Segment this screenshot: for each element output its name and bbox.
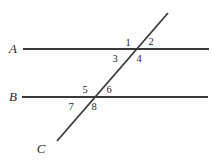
transversal-c-stroke: [57, 13, 168, 141]
geometry-canvas: A B C 1 2 3 4 5 6 7 8: [0, 0, 213, 162]
angle-label-4: 4: [136, 53, 142, 64]
angle-label-1: 1: [125, 37, 130, 48]
line-label-b: B: [9, 89, 17, 104]
angle-label-8: 8: [91, 101, 96, 112]
line-label-c: C: [37, 141, 46, 156]
angle-label-2: 2: [148, 36, 153, 47]
angle-label-3: 3: [112, 53, 117, 64]
line-label-a: A: [8, 41, 17, 56]
angle-label-6: 6: [106, 84, 111, 95]
angle-label-5: 5: [82, 84, 87, 95]
geometry-diagram: A B C 1 2 3 4 5 6 7 8: [0, 0, 213, 162]
angle-label-7: 7: [68, 101, 73, 112]
